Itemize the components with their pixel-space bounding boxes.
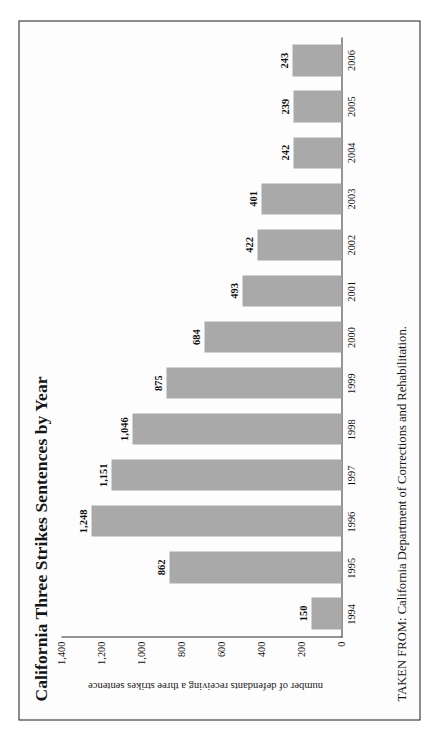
bar[interactable]: [132, 413, 341, 444]
bar-value-label: 862: [155, 559, 166, 575]
bar-value-label: 422: [243, 236, 254, 252]
bar-slot[interactable]: 862: [61, 544, 341, 590]
bar-value-label: 242: [279, 144, 290, 160]
bar-value-label: 1,248: [77, 509, 88, 533]
bar-slot[interactable]: 684: [61, 313, 341, 359]
y-axis-tick-labels: 02004006008001,0001,2001,400: [61, 641, 341, 677]
bar-value-label: 1,151: [97, 463, 108, 487]
bar[interactable]: [204, 321, 341, 352]
bar-slot[interactable]: 1,046: [61, 406, 341, 452]
bar-series: 1508621,2481,1511,0468756844934224012422…: [61, 37, 341, 636]
x-tick-label: 1997: [345, 452, 356, 498]
bar[interactable]: [311, 597, 341, 628]
page-frame: California Three Strikes Sentences by Ye…: [18, 20, 420, 720]
y-tick-label: 800: [176, 641, 187, 657]
rotated-page-stage: California Three Strikes Sentences by Ye…: [0, 0, 439, 739]
y-tick-label: 1,400: [56, 641, 67, 664]
x-tick-label: 2005: [345, 83, 356, 129]
bar[interactable]: [169, 551, 341, 582]
x-tick-label: 2001: [345, 268, 356, 314]
y-tick-label: 200: [296, 641, 307, 657]
x-tick-label: 2004: [345, 129, 356, 175]
bar[interactable]: [293, 137, 341, 168]
bar-slot[interactable]: 493: [61, 267, 341, 313]
y-axis-label: number of defendants receiving a three s…: [55, 677, 355, 691]
y-tick-label: 600: [216, 641, 227, 657]
bar-slot[interactable]: 243: [61, 37, 341, 83]
bar-slot[interactable]: 875: [61, 360, 341, 406]
bar[interactable]: [261, 183, 341, 214]
x-tick-label: 2003: [345, 175, 356, 221]
bar-value-label: 401: [247, 190, 258, 206]
bar-value-label: 239: [279, 98, 290, 114]
chart-plot-area: number of defendants receiving a three s…: [55, 35, 377, 703]
bar-value-label: 684: [190, 329, 201, 345]
x-tick-label: 2000: [345, 314, 356, 360]
y-tick-label: 0: [336, 641, 347, 646]
bar-slot[interactable]: 150: [61, 590, 341, 636]
bar-slot[interactable]: 1,248: [61, 498, 341, 544]
bar-slot[interactable]: 422: [61, 221, 341, 267]
bar-slot[interactable]: 1,151: [61, 452, 341, 498]
x-tick-label: 2006: [345, 37, 356, 83]
bar[interactable]: [293, 90, 341, 121]
bar-slot[interactable]: 242: [61, 129, 341, 175]
page-inner: California Three Strikes Sentences by Ye…: [19, 21, 419, 719]
bar[interactable]: [166, 367, 341, 398]
x-tick-label: 1996: [345, 499, 356, 545]
bar-value-label: 1,046: [118, 417, 129, 441]
bar-slot[interactable]: 401: [61, 175, 341, 221]
y-tick-label: 400: [256, 641, 267, 657]
chart-axes: 1508621,2481,1511,0468756844934224012422…: [61, 37, 342, 637]
y-tick-label: 1,200: [96, 641, 107, 664]
bar[interactable]: [292, 44, 341, 75]
y-tick-label: 1,000: [136, 641, 147, 664]
x-tick-label: 1999: [345, 360, 356, 406]
bar-value-label: 493: [228, 283, 239, 299]
x-tick-label: 1995: [345, 545, 356, 591]
bar-slot[interactable]: 239: [61, 83, 341, 129]
bar[interactable]: [91, 505, 341, 536]
bar[interactable]: [111, 459, 341, 490]
bar-value-label: 243: [278, 52, 289, 68]
source-attribution: TAKEN FROM: California Department of Cor…: [394, 326, 409, 701]
page-title: California Three Strikes Sentences by Ye…: [31, 35, 50, 701]
bar-value-label: 150: [297, 605, 308, 621]
bar[interactable]: [257, 229, 341, 260]
bar-value-label: 875: [152, 375, 163, 391]
x-tick-label: 2002: [345, 222, 356, 268]
x-tick-label: 1998: [345, 406, 356, 452]
x-axis-tick-labels: 1994199519961997199819992000200120022003…: [345, 37, 356, 637]
x-tick-label: 1994: [345, 591, 356, 637]
bar[interactable]: [242, 275, 341, 306]
